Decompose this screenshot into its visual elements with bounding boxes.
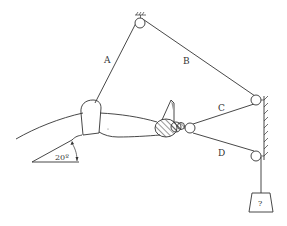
label-c: C [218,103,225,113]
angle-label: 20º [55,153,69,162]
hand-pulley [185,123,195,133]
rope-b [142,19,255,97]
label-a: A [103,55,111,65]
ceiling-anchor [135,12,146,18]
hand [155,100,187,137]
weight-block: ? [249,193,273,212]
rope-a [95,24,136,103]
weight-label: ? [258,199,262,208]
top-pulley [135,18,145,28]
elbow-cap [81,100,101,135]
diagram-canvas: ? 20º A B C D [0,0,287,226]
forearm [99,113,160,137]
upper-arm [16,113,83,140]
wall [264,96,268,160]
lower-right-pulley [251,151,261,161]
label-b: B [183,56,190,66]
upper-right-pulley [251,95,261,105]
angle-indicator: 20º [32,140,79,162]
label-d: D [218,148,225,158]
